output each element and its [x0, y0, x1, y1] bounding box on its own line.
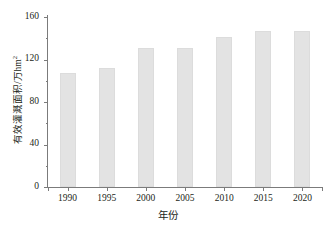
y-tick-label: 160	[25, 11, 39, 22]
y-tick-mark	[44, 102, 48, 103]
x-tick-label: 2000	[136, 192, 155, 204]
x-tick-mark	[185, 187, 186, 191]
y-tick-mark	[44, 60, 48, 61]
y-tick-mark	[44, 145, 48, 146]
x-tick-mark	[107, 187, 108, 191]
bar	[294, 31, 310, 187]
bar	[255, 31, 271, 187]
x-tick-label: 2020	[293, 192, 312, 204]
x-tick-label: 2005	[176, 192, 195, 204]
y-tick-label: 40	[30, 138, 40, 149]
x-tick-mark	[263, 187, 264, 191]
x-tick-label: 1990	[58, 192, 77, 204]
y-tick-mark	[46, 166, 49, 167]
y-axis-title: 有效灌溉面积/万hm2	[11, 15, 25, 185]
y-tick-label: 120	[25, 53, 39, 64]
y-tick-mark	[46, 123, 49, 124]
y-tick-label: 0	[34, 181, 39, 192]
x-tick-mark	[146, 187, 147, 191]
x-tick-mark-edge	[322, 187, 323, 191]
x-tick-label: 2015	[254, 192, 273, 204]
x-tick-mark	[224, 187, 225, 191]
x-axis-title: 年份	[0, 209, 336, 222]
bar	[216, 37, 232, 187]
x-tick-label: 1995	[97, 192, 116, 204]
x-tick-label: 2010	[215, 192, 234, 204]
y-axis-title-text: 有效灌溉面积/万hm	[13, 59, 23, 144]
y-tick-mark	[44, 17, 48, 18]
bar	[138, 48, 154, 187]
y-tick-mark	[46, 38, 49, 39]
x-tick-mark-edge	[48, 187, 49, 191]
bar-chart-figure: 04080120160 1990199520002005201020152020…	[0, 0, 336, 235]
x-tick-mark	[302, 187, 303, 191]
plot-area: 04080120160	[48, 17, 322, 187]
x-tick-mark	[68, 187, 69, 191]
y-tick-label: 80	[30, 96, 40, 107]
y-axis-title-superscript: 2	[11, 56, 18, 59]
bar	[60, 73, 76, 187]
y-tick-mark	[46, 81, 49, 82]
bar	[99, 68, 115, 187]
bar	[177, 48, 193, 187]
